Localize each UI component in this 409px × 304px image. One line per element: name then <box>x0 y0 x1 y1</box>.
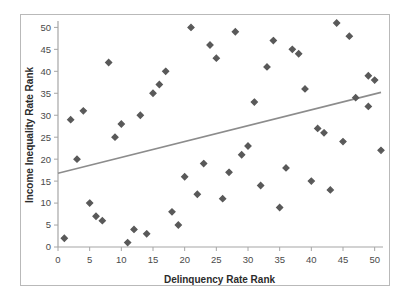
data-point-marker <box>220 196 226 202</box>
data-point-marker <box>277 204 283 210</box>
data-point-marker <box>302 86 308 92</box>
data-point-marker <box>99 218 105 224</box>
data-point-marker <box>251 99 257 105</box>
x-tick-label: 30 <box>243 254 254 265</box>
data-point-marker <box>87 200 93 206</box>
y-tick-label: 30 <box>40 110 51 121</box>
data-point-marker <box>372 77 378 83</box>
x-tick-label: 40 <box>306 254 317 265</box>
data-point-marker <box>296 51 302 57</box>
x-tick-label: 50 <box>369 254 380 265</box>
data-point-marker <box>258 183 264 189</box>
y-tick-label: 45 <box>40 44 51 55</box>
trendline <box>58 92 381 173</box>
data-point-marker <box>239 152 245 158</box>
data-point-marker <box>340 139 346 145</box>
data-point-marker <box>245 143 251 149</box>
data-point-marker <box>169 209 175 215</box>
data-point-marker <box>188 24 194 30</box>
axes-group <box>58 21 383 247</box>
x-tick-group: 05101520253035404550 <box>55 247 380 265</box>
data-point-marker <box>327 187 333 193</box>
data-point-marker <box>182 174 188 180</box>
data-point-marker <box>315 125 321 131</box>
data-point-marker <box>365 103 371 109</box>
data-point-marker <box>61 235 67 241</box>
y-tick-label: 15 <box>40 176 51 187</box>
trendline-segment <box>58 92 381 173</box>
y-tick-label: 10 <box>40 197 51 208</box>
data-point-marker <box>80 108 86 114</box>
data-point-marker <box>289 46 295 52</box>
x-tick-label: 5 <box>87 254 92 265</box>
data-point-marker <box>365 73 371 79</box>
data-point-marker <box>321 130 327 136</box>
data-point-marker <box>283 165 289 171</box>
x-tick-label: 35 <box>274 254 285 265</box>
y-tick-label: 40 <box>40 66 51 77</box>
data-point-marker <box>131 226 137 232</box>
y-tick-label: 20 <box>40 154 51 165</box>
y-tick-group: 05101520253035404550 <box>40 22 58 253</box>
data-point-marker <box>334 20 340 26</box>
plot-frame: 05101520253035404550 0510152025303540455… <box>20 14 390 286</box>
y-tick-label: 50 <box>40 22 51 33</box>
data-point-marker <box>207 42 213 48</box>
data-point-marker <box>144 231 150 237</box>
y-tick-label: 5 <box>46 219 51 230</box>
data-point-marker <box>112 134 118 140</box>
data-point-marker <box>226 169 232 175</box>
chart-figure: 05101520253035404550 0510152025303540455… <box>0 0 409 304</box>
x-tick-label: 25 <box>211 254 222 265</box>
data-point-marker <box>346 33 352 39</box>
data-point-marker <box>125 240 131 246</box>
data-point-marker <box>175 222 181 228</box>
data-point-marker <box>93 213 99 219</box>
data-point-marker <box>150 90 156 96</box>
x-axis-title: Delinquency Rate Rank <box>164 274 276 285</box>
data-point-marker <box>68 117 74 123</box>
data-point-marker <box>163 68 169 74</box>
data-point-marker <box>378 147 384 153</box>
x-tick-label: 15 <box>148 254 159 265</box>
data-point-marker <box>137 112 143 118</box>
x-tick-label: 20 <box>179 254 190 265</box>
data-point-marker <box>156 81 162 87</box>
scatter-chart: 05101520253035404550 0510152025303540455… <box>21 15 389 285</box>
x-tick-label: 10 <box>116 254 127 265</box>
data-point-marker <box>118 121 124 127</box>
y-axis-title: Income Inequality Rate Rank <box>24 66 35 203</box>
data-point-marker <box>308 178 314 184</box>
x-tick-label: 45 <box>338 254 349 265</box>
x-tick-label: 0 <box>55 254 60 265</box>
data-point-marker <box>232 29 238 35</box>
data-point-marker <box>270 38 276 44</box>
data-point-marker <box>74 156 80 162</box>
y-tick-label: 0 <box>46 241 51 252</box>
data-point-marker <box>201 161 207 167</box>
data-point-marker <box>264 64 270 70</box>
data-point-marker <box>213 55 219 61</box>
y-tick-label: 25 <box>40 132 51 143</box>
data-point-marker <box>106 60 112 66</box>
y-tick-label: 35 <box>40 88 51 99</box>
axis-labels-group: Delinquency Rate RankIncome Inequality R… <box>24 66 276 285</box>
data-point-marker <box>194 191 200 197</box>
